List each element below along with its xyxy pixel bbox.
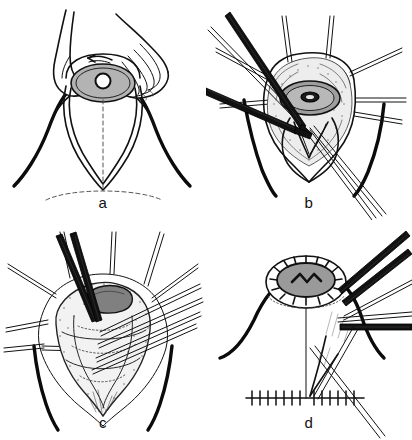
panel-b: b [206, 0, 412, 220]
inframammary-suture-line [246, 391, 364, 405]
direction-arrow [88, 55, 112, 63]
vertical-limb [306, 308, 338, 398]
panel-d: d [206, 220, 412, 440]
panel-label-d: d [206, 414, 412, 431]
panel-a: a [0, 0, 206, 220]
panel-c: c [0, 220, 206, 440]
shading-hatch [318, 312, 350, 366]
panel-label-c: c [0, 414, 206, 431]
figure-root: a [0, 0, 412, 440]
nipple-circle [96, 74, 111, 89]
panel-label-b: b [206, 194, 412, 211]
forceps-bundle[interactable] [338, 231, 412, 330]
areola-disc [266, 256, 346, 308]
areola-nipple-complex [71, 64, 135, 102]
panel-label-a: a [0, 194, 206, 211]
